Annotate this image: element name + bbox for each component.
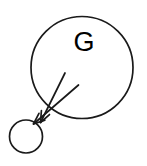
- diagram-svg: G: [0, 0, 147, 166]
- figure-canvas: G: [0, 0, 147, 166]
- large-circle-label: G: [73, 27, 94, 57]
- small-circle-node: [10, 120, 43, 153]
